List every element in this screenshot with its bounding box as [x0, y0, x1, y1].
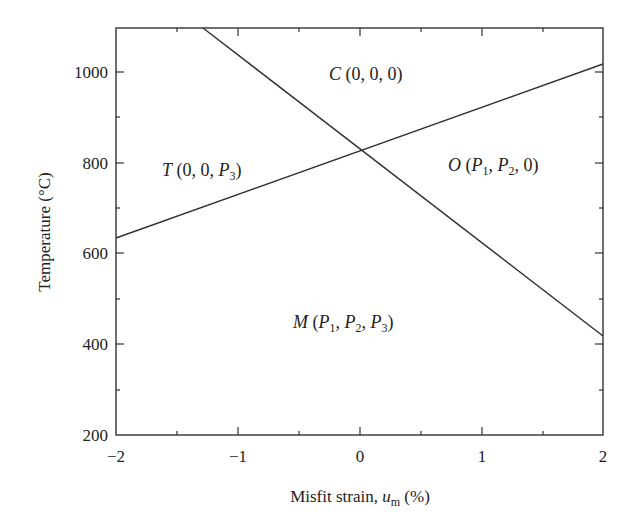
phase-diagram: −2 −1 0 1 2 200 400 600 800 1000 Misfit … — [0, 0, 639, 529]
svg-text:−1: −1 — [229, 447, 247, 466]
x-axis-label: Misfit strain, um (%) — [290, 487, 430, 509]
svg-text:0: 0 — [356, 447, 365, 466]
falling-boundary-line — [203, 28, 603, 336]
y-axis-label: Temperature (°C) — [35, 172, 54, 291]
svg-text:800: 800 — [83, 154, 109, 173]
plot-frame — [116, 28, 603, 435]
region-label-O: O (P1, P2, 0) — [448, 155, 539, 178]
x-ticks — [177, 28, 543, 435]
rising-boundary-line — [116, 64, 603, 238]
svg-text:1: 1 — [478, 447, 487, 466]
x-tick-labels: −2 −1 0 1 2 — [107, 447, 607, 466]
svg-text:600: 600 — [83, 244, 109, 263]
region-label-T: T (0, 0, P3) — [162, 160, 242, 183]
svg-text:1000: 1000 — [74, 63, 108, 82]
region-label-C: C (0, 0, 0) — [329, 64, 403, 85]
svg-text:2: 2 — [599, 447, 608, 466]
region-label-M: M (P1, P2, P3) — [292, 312, 394, 335]
y-ticks — [116, 72, 603, 390]
svg-text:200: 200 — [83, 426, 109, 445]
y-tick-labels: 200 400 600 800 1000 — [74, 63, 108, 445]
svg-text:−2: −2 — [107, 447, 125, 466]
svg-text:400: 400 — [83, 335, 109, 354]
